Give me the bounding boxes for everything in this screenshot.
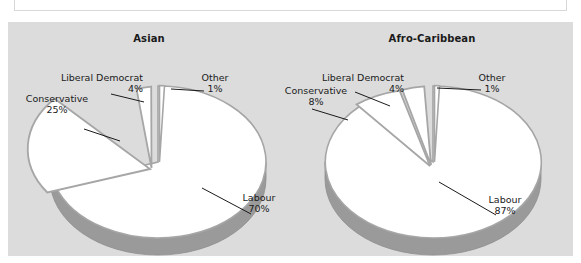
label-labour-pct-asian: 70% (237, 203, 281, 214)
pie-graphic-afro-caribbean (291, 22, 573, 256)
label-other-asian: Other 1% (194, 72, 236, 94)
label-other-pct-asian: 1% (194, 83, 236, 94)
label-labour-name-afro-caribbean: Labour (489, 194, 522, 205)
label-labour-name-asian: Labour (243, 192, 276, 203)
label-other-name-afro-caribbean: Other (479, 72, 506, 83)
label-other-pct-afro-caribbean: 1% (471, 83, 513, 94)
label-labour-afro-caribbean: Labour 87% (483, 194, 527, 216)
pie-chart-asian: Asian (8, 22, 290, 256)
pie-chart-afro-caribbean: Afro-Caribbean (291, 22, 573, 256)
leader-line-conservative-afro-caribbean (312, 109, 348, 120)
label-other-name-asian: Other (202, 72, 229, 83)
label-conservative-pct-afro-caribbean: 8% (275, 96, 357, 107)
label-liberal-democrat-asian: Liberal Democrat 4% (8, 72, 143, 94)
label-other-afro-caribbean: Other 1% (471, 72, 513, 94)
label-liberal-democrat-name-afro-caribbean: Liberal Democrat (322, 72, 404, 83)
pie-graphic-asian (8, 22, 290, 256)
top-white-strip (14, 0, 567, 11)
label-liberal-democrat-name-asian: Liberal Democrat (61, 72, 143, 83)
label-conservative-afro-caribbean: Conservative 8% (275, 85, 357, 107)
label-conservative-pct-asian: 25% (16, 104, 98, 115)
label-labour-asian: Labour 70% (237, 192, 281, 214)
label-conservative-name-afro-caribbean: Conservative (285, 85, 347, 96)
liberal-democrat-slice-asian (137, 87, 152, 168)
label-labour-pct-afro-caribbean: 87% (483, 205, 527, 216)
figure-page: Asian (0, 0, 581, 263)
label-conservative-name-asian: Conservative (26, 93, 88, 104)
figure-panel: Asian (8, 22, 573, 256)
label-conservative-asian: Conservative 25% (16, 93, 98, 115)
